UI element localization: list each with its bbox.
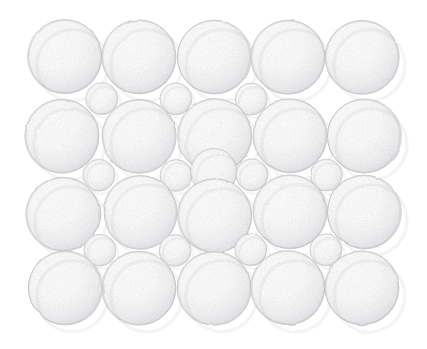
- sphere-packing-figure: [0, 0, 427, 349]
- sphere-lattice-canvas: [0, 0, 427, 349]
